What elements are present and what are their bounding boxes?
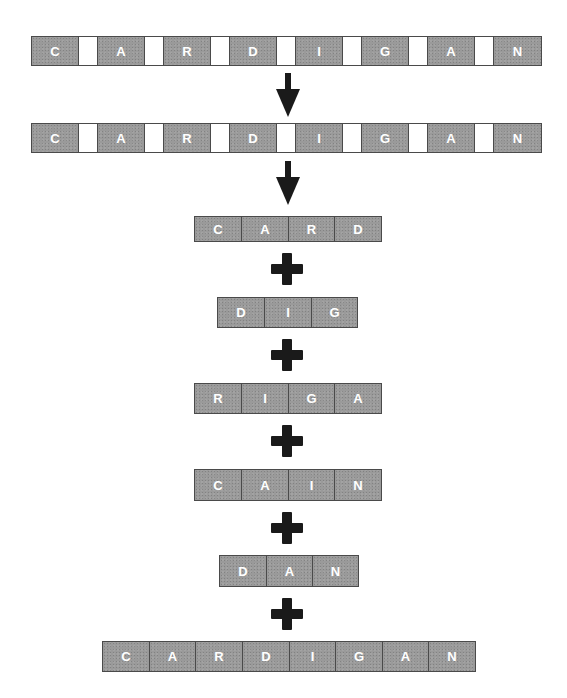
gap-box [475,37,494,65]
letter-box: R [164,124,211,152]
letter-box: I [290,642,336,671]
letter-box: D [230,124,277,152]
letter-box: G [336,642,383,671]
letter-box: N [494,37,542,65]
gap-box [145,124,164,152]
letter-box: N [494,124,542,152]
down-arrow-icon [276,73,300,117]
spaced-row-2: C A R D I G A N [31,123,542,153]
gap-box [409,37,428,65]
letter-box: D [218,298,265,327]
plus-icon [271,339,303,371]
letter-box: A [150,642,196,671]
letter-box: D [220,556,267,586]
plus-icon [271,425,303,457]
letter-box: G [312,298,358,327]
letter-box: A [98,37,145,65]
gap-box [475,124,494,152]
letter-box: C [195,217,242,241]
letter-box: R [289,217,335,241]
plus-icon [271,512,303,544]
letter-box: A [428,37,475,65]
gap-box [343,37,362,65]
spaced-row-1: C A R D I G A N [31,36,542,66]
gap-box [211,37,230,65]
word-dig: D I G [217,297,358,328]
gap-box [79,37,98,65]
letter-box: D [230,37,277,65]
gap-box [79,124,98,152]
letter-box: N [335,470,382,500]
letter-box: R [164,37,211,65]
letter-box: C [103,642,150,671]
letter-box: A [242,470,289,500]
gap-box [409,124,428,152]
letter-box: I [242,384,289,413]
letter-box: A [242,217,289,241]
gap-box [277,37,296,65]
letter-box: D [335,217,382,241]
letter-box: G [289,384,335,413]
word-riga: R I G A [194,383,382,414]
word-dan: D A N [219,555,359,587]
letter-box: I [296,124,343,152]
letter-box: A [98,124,145,152]
result-word-cardigan: C A R D I G A N [102,641,476,672]
down-arrow-icon [276,161,300,205]
letter-box: A [335,384,382,413]
letter-box: I [289,470,335,500]
plus-icon [271,598,303,630]
letter-box: N [313,556,359,586]
gap-box [343,124,362,152]
letter-box: C [195,470,242,500]
letter-box: C [32,124,79,152]
word-cain: C A I N [194,469,382,501]
letter-box: D [243,642,290,671]
letter-box: A [383,642,429,671]
gap-box [211,124,230,152]
letter-box: R [196,642,243,671]
word-card: C A R D [194,216,382,242]
letter-box: A [267,556,313,586]
letter-box: R [195,384,242,413]
plus-icon [271,253,303,285]
gap-box [145,37,164,65]
letter-box: C [32,37,79,65]
letter-box: G [362,124,409,152]
letter-box: I [265,298,312,327]
gap-box [277,124,296,152]
letter-box: N [429,642,476,671]
letter-box: A [428,124,475,152]
letter-box: I [296,37,343,65]
letter-box: G [362,37,409,65]
